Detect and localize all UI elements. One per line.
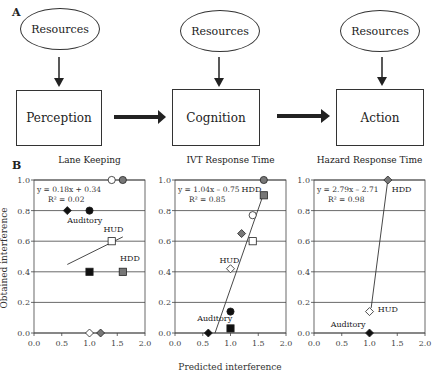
y-tick-label: 1.0 bbox=[297, 176, 310, 185]
y-tick-label: 0.8 bbox=[297, 207, 310, 216]
data-point-diamond bbox=[384, 176, 392, 184]
regression-equation: y = 1.04x – 0.75 bbox=[177, 185, 240, 194]
cognition-box: Cognition bbox=[172, 89, 260, 146]
data-point-diamond bbox=[97, 329, 105, 337]
arrow-perception-to-cognition bbox=[114, 110, 166, 124]
y-tick-label: 0.0 bbox=[158, 329, 171, 338]
arrow-resources-to-cognition bbox=[214, 57, 224, 87]
data-point-diamond bbox=[366, 308, 374, 316]
data-point-square bbox=[249, 238, 256, 245]
x-tick-label: 0.0 bbox=[28, 339, 41, 348]
action-box: Action bbox=[336, 89, 424, 146]
perception-box: Perception bbox=[16, 90, 102, 146]
annotation-hud: HUD bbox=[378, 305, 398, 314]
data-point-square bbox=[260, 192, 267, 199]
annotation-auditory: Auditory bbox=[330, 320, 366, 329]
x-tick-label: 1.5 bbox=[252, 339, 265, 348]
data-point-diamond bbox=[238, 230, 246, 238]
chart-title: Lane Keeping bbox=[58, 155, 121, 165]
r-squared-label: R² = 0.02 bbox=[48, 195, 85, 204]
x-tick-label: 2.0 bbox=[280, 339, 293, 348]
y-tick-label: 0.0 bbox=[297, 329, 310, 338]
data-point-diamond bbox=[204, 329, 212, 337]
x-tick-label: 1.0 bbox=[83, 339, 96, 348]
y-tick-label: 0.2 bbox=[297, 298, 310, 307]
annotation-hud: HUD bbox=[219, 256, 239, 265]
arrow-cognition-to-action bbox=[277, 109, 330, 123]
x-tick-label: 0.0 bbox=[169, 339, 182, 348]
data-point-circle bbox=[249, 212, 256, 219]
y-axis-label: Obtained interference bbox=[0, 207, 9, 308]
x-axis-label: Predicted interference bbox=[178, 362, 281, 372]
arrow-resources-to-perception bbox=[54, 57, 64, 87]
annotation-hdd: HDD bbox=[120, 254, 140, 263]
annotation-auditory: Auditory bbox=[196, 314, 232, 323]
y-tick-label: 0.2 bbox=[17, 298, 30, 307]
x-tick-label: 0.5 bbox=[335, 339, 348, 348]
annotation-auditory: Auditory bbox=[66, 216, 102, 225]
y-tick-label: 0.6 bbox=[297, 237, 310, 246]
data-point-circle bbox=[260, 176, 267, 183]
chart-title: Hazard Response Time bbox=[317, 155, 423, 165]
r-squared-label: R² = 0.98 bbox=[328, 195, 365, 204]
y-tick-label: 0.8 bbox=[158, 207, 171, 216]
regression-equation: y = 0.18x + 0.34 bbox=[36, 185, 101, 194]
y-tick-label: 0.6 bbox=[158, 237, 171, 246]
arrow-resources-to-action bbox=[377, 57, 387, 86]
y-tick-label: 0.2 bbox=[158, 298, 171, 307]
x-tick-label: 0.0 bbox=[308, 339, 321, 348]
x-tick-label: 2.0 bbox=[419, 339, 432, 348]
y-tick-label: 1.0 bbox=[17, 176, 30, 185]
annotation-hud: HUD bbox=[103, 225, 123, 234]
x-tick-label: 1.0 bbox=[363, 339, 376, 348]
x-tick-label: 1.5 bbox=[111, 339, 124, 348]
scatter-charts: Obtained interference Predicted interfer… bbox=[0, 150, 437, 374]
regression-equation: y = 2.79x – 2.71 bbox=[316, 185, 378, 194]
r-squared-label: R² = 0.85 bbox=[189, 195, 226, 204]
data-point-diamond bbox=[366, 329, 374, 337]
y-tick-label: 0.4 bbox=[297, 268, 310, 277]
y-tick-label: 0.6 bbox=[17, 237, 30, 246]
data-point-diamond bbox=[86, 329, 94, 337]
x-tick-label: 1.0 bbox=[224, 339, 237, 348]
x-tick-label: 1.5 bbox=[391, 339, 404, 348]
data-point-circle bbox=[86, 207, 93, 214]
y-tick-label: 0.0 bbox=[17, 329, 30, 338]
annotation-hdd: HDD bbox=[392, 185, 412, 194]
data-point-square bbox=[86, 268, 93, 275]
x-tick-label: 2.0 bbox=[139, 339, 152, 348]
data-point-square bbox=[227, 325, 234, 332]
x-tick-label: 0.5 bbox=[55, 339, 68, 348]
fit-line bbox=[371, 180, 388, 308]
y-tick-label: 1.0 bbox=[158, 176, 171, 185]
chart-title: IVT Response Time bbox=[186, 155, 274, 165]
annotation-hdd: HDD bbox=[242, 185, 262, 194]
x-tick-label: 0.5 bbox=[196, 339, 209, 348]
data-point-square bbox=[119, 268, 126, 275]
data-point-diamond bbox=[63, 207, 71, 215]
y-tick-label: 0.4 bbox=[158, 268, 171, 277]
data-point-circle bbox=[108, 176, 115, 183]
y-tick-label: 0.4 bbox=[17, 268, 30, 277]
y-tick-label: 0.8 bbox=[17, 207, 30, 216]
data-point-square bbox=[108, 238, 115, 245]
data-point-circle bbox=[227, 308, 234, 315]
data-point-circle bbox=[119, 176, 126, 183]
